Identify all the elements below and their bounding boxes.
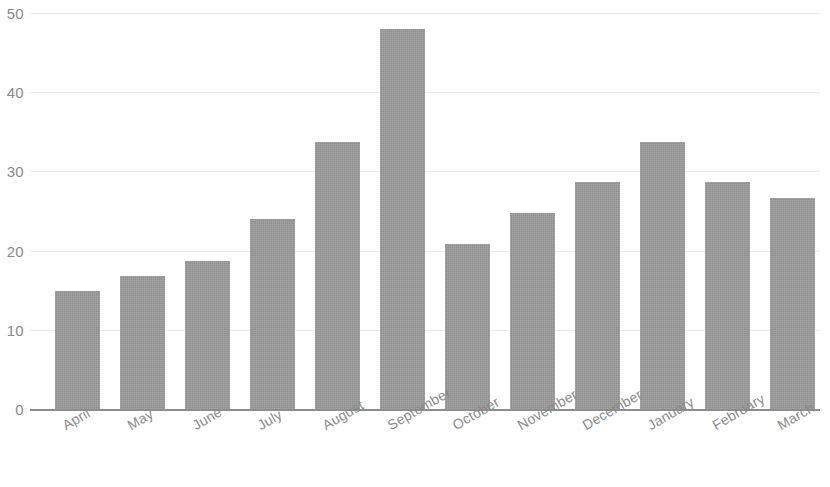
plot-area [30,0,820,410]
y-axis: 01020304050 [0,0,24,410]
bar-fill [575,182,620,409]
bar-fill [185,261,230,409]
bar-march[interactable] [770,198,815,409]
bar-november[interactable] [510,213,555,409]
bar-october[interactable] [445,244,490,409]
gridline [30,251,820,252]
gridline [30,171,820,172]
bar-june[interactable] [185,261,230,409]
bar-february[interactable] [705,182,750,409]
bar-fill [705,182,750,409]
y-tick-label: 50 [0,6,24,21]
bar-fill [250,219,295,409]
bar-fill [315,142,360,409]
bar-fill [380,29,425,409]
bar-april[interactable] [55,291,100,409]
bar-fill [640,142,685,409]
bar-fill [770,198,815,409]
bar-september[interactable] [380,29,425,409]
bar-january[interactable] [640,142,685,409]
y-tick-label: 20 [0,244,24,259]
gridline [30,92,820,93]
bar-fill [120,276,165,409]
bar-chart: 01020304050 AprilMayJuneJulyAugustSeptem… [0,0,830,487]
y-tick-label: 30 [0,164,24,179]
x-axis: AprilMayJuneJulyAugustSeptemberOctoberNo… [30,412,820,487]
bar-july[interactable] [250,219,295,409]
bar-august[interactable] [315,142,360,409]
y-tick-label: 10 [0,323,24,338]
y-tick-label: 0 [0,402,24,417]
bar-fill [55,291,100,409]
bar-fill [445,244,490,409]
bar-may[interactable] [120,276,165,409]
bar-december[interactable] [575,182,620,409]
bar-fill [510,213,555,409]
y-tick-label: 40 [0,85,24,100]
gridline [30,13,820,14]
